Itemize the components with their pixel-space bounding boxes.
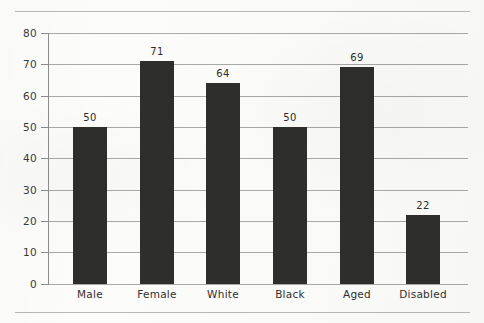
- ytick-label-0: 0: [0, 279, 37, 290]
- bar-white: [206, 83, 240, 284]
- category-label-female: Female: [125, 289, 189, 300]
- ytick-label-40: 40: [0, 153, 37, 164]
- axis-x-baseline: [48, 284, 468, 285]
- plot-area: 80 70 60 50 40 30 20 10 0 50 71 64 50 69…: [0, 0, 484, 323]
- gridline-50: [48, 127, 468, 128]
- gridline-70: [48, 64, 468, 65]
- bar-aged: [340, 67, 374, 284]
- gridline-80: [48, 33, 468, 34]
- bar-value-aged: 69: [340, 53, 374, 63]
- ytick-mark-30: [41, 190, 49, 191]
- ytick-mark-10: [41, 252, 49, 253]
- bar-value-female: 71: [140, 47, 174, 57]
- ytick-mark-50: [41, 127, 49, 128]
- category-label-white: White: [191, 289, 255, 300]
- ytick-mark-80: [41, 33, 49, 34]
- category-label-aged: Aged: [325, 289, 389, 300]
- bar-value-male: 50: [73, 113, 107, 123]
- bar-value-white: 64: [206, 69, 240, 79]
- gridline-20: [48, 221, 468, 222]
- category-label-disabled: Disabled: [389, 289, 457, 300]
- bar-value-black: 50: [273, 113, 307, 123]
- bar-disabled: [406, 215, 440, 284]
- ytick-label-30: 30: [0, 185, 37, 196]
- ytick-label-80: 80: [0, 28, 37, 39]
- ytick-mark-20: [41, 221, 49, 222]
- ytick-label-60: 60: [0, 91, 37, 102]
- gridline-10: [48, 252, 468, 253]
- ytick-label-20: 20: [0, 216, 37, 227]
- ytick-mark-40: [41, 158, 49, 159]
- bar-male: [73, 127, 107, 284]
- ytick-mark-60: [41, 96, 49, 97]
- ytick-label-70: 70: [0, 59, 37, 70]
- gridline-30: [48, 190, 468, 191]
- ytick-label-50: 50: [0, 122, 37, 133]
- category-label-male: Male: [58, 289, 122, 300]
- gridline-60: [48, 96, 468, 97]
- bar-value-disabled: 22: [406, 201, 440, 211]
- ytick-label-10: 10: [0, 247, 37, 258]
- ytick-mark-0: [41, 284, 49, 285]
- category-label-black: Black: [258, 289, 322, 300]
- ytick-mark-70: [41, 64, 49, 65]
- bar-chart-figure: 80 70 60 50 40 30 20 10 0 50 71 64 50 69…: [0, 0, 484, 323]
- bar-black: [273, 127, 307, 284]
- gridline-40: [48, 158, 468, 159]
- bar-female: [140, 61, 174, 284]
